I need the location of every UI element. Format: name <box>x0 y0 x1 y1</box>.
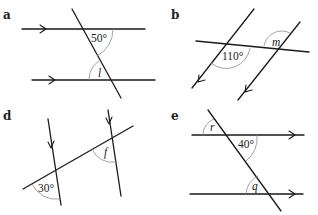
transversal-line <box>72 9 121 98</box>
transversal-line <box>196 41 309 52</box>
transversal-line <box>208 110 281 211</box>
panel-label-d: d <box>3 109 12 123</box>
panel-a: a 50° l <box>3 8 155 98</box>
unknown-angle-label: l <box>98 67 101 79</box>
angles-diagram: a 50° l b 110° m d 30° f e <box>0 0 318 215</box>
transversal-line <box>23 126 133 189</box>
panel-d: d 30° f <box>3 109 133 205</box>
panel-e: e r 40° q <box>171 109 304 211</box>
angle-label: 110° <box>222 50 244 62</box>
panel-label-b: b <box>171 8 179 22</box>
panel-label-a: a <box>3 8 11 22</box>
angle-label: 50° <box>91 32 108 44</box>
panel-b: b 110° m <box>171 8 309 100</box>
unknown-angle-label-q: q <box>252 180 258 193</box>
angle-label: 30° <box>38 182 55 194</box>
parallel-line-right <box>238 22 300 100</box>
unknown-angle-label-r: r <box>210 121 215 133</box>
parallel-line-left <box>192 9 254 88</box>
angle-label: 40° <box>238 138 255 150</box>
unknown-angle-label: m <box>272 36 280 48</box>
panel-label-e: e <box>171 109 179 123</box>
unknown-angle-label: f <box>104 146 109 159</box>
